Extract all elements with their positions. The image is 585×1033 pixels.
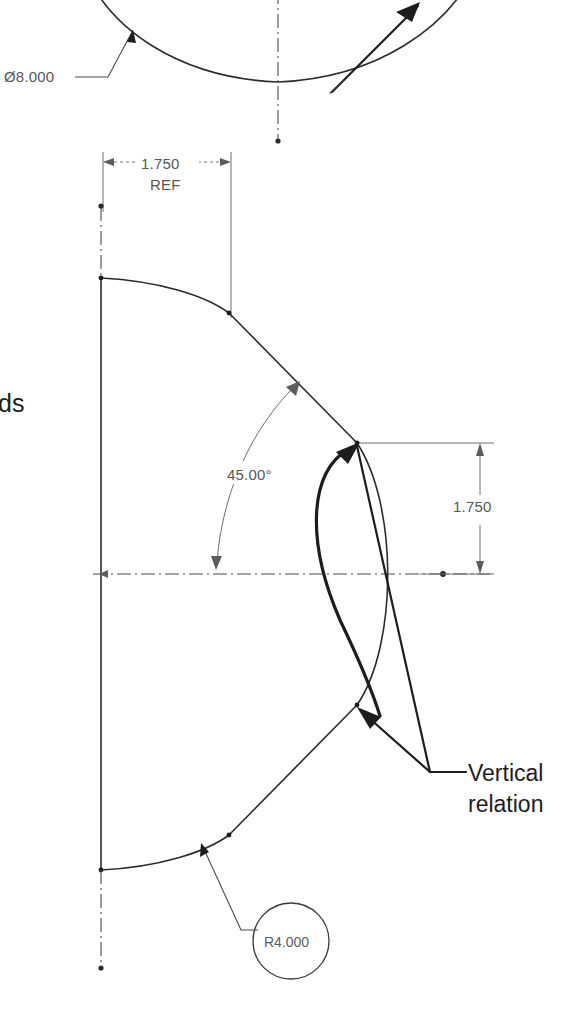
technical-drawing-canvas: Ø8.000 1.750 REF <box>0 0 585 1033</box>
ref-width-dimension: 1.750 REF <box>103 151 231 318</box>
ref-arrow-right-icon <box>220 158 231 166</box>
profile-left-centerline-top-endpoint <box>98 203 103 208</box>
radius-leader-line <box>203 847 258 930</box>
top-circle-geometry <box>85 0 478 82</box>
profile-lower-arc <box>101 835 229 870</box>
radius-dimension-value: R4.000 <box>264 934 309 950</box>
top-relation-tail <box>330 80 344 93</box>
height-arrow-bottom-icon <box>476 561 484 574</box>
top-relation-leader-group <box>330 2 420 93</box>
profile-upper-arc <box>101 278 229 313</box>
profile-lower-angled-line <box>229 705 357 835</box>
angle-dimension: 45.00° <box>211 381 300 570</box>
diameter-leader-group <box>75 30 136 77</box>
angle-dimension-value: 45.00° <box>227 466 272 483</box>
clipped-note-text: ds <box>0 389 24 417</box>
cad-drawing-svg: Ø8.000 1.750 REF <box>0 0 585 1033</box>
profile-left-centerline-bottom-endpoint <box>98 965 103 970</box>
diameter-dimension-text: Ø8.000 <box>4 68 54 85</box>
height-arrow-top-icon <box>476 443 484 456</box>
profile-vertex-upper-tangent <box>227 311 232 316</box>
profile-upper-angled-line <box>229 313 357 443</box>
ref-dimension-suffix: REF <box>150 176 181 193</box>
top-vertical-centerline-group <box>275 0 280 144</box>
top-centerline-endpoint <box>275 138 280 143</box>
profile-vertex-lower-tangent <box>227 833 232 838</box>
profile-vertex-top-left <box>99 276 104 281</box>
angle-arrow-bottom-icon <box>211 556 222 570</box>
top-relation-leader-line <box>332 6 418 92</box>
height-dimension: 1.750 <box>359 443 494 574</box>
height-dimension-value: 1.750 <box>453 498 492 515</box>
vertical-relation-curve <box>316 450 380 716</box>
top-relation-arrow-icon <box>396 2 420 22</box>
diameter-leader-line <box>75 30 133 77</box>
profile-vertex-lower-end <box>355 703 360 708</box>
vertical-relation-note-line1: Vertical <box>468 760 543 786</box>
radius-balloon-group: R4.000 <box>200 843 329 979</box>
vertical-relation-note-line2: relation <box>468 791 543 817</box>
radius-leader-arrow-icon <box>200 843 209 857</box>
ref-dimension-value: 1.750 <box>141 155 180 172</box>
top-circle-arc <box>85 0 478 82</box>
ref-arrow-left-icon <box>103 158 114 166</box>
